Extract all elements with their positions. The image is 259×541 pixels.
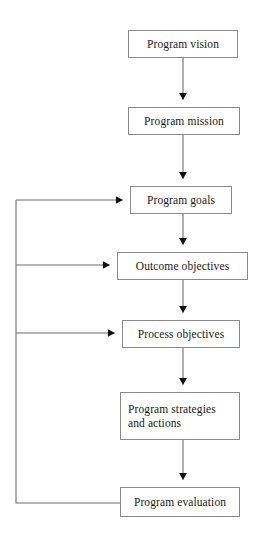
node-label: Process objectives — [138, 327, 224, 341]
node-label: Outcome objectives — [136, 259, 229, 273]
node-outcome-objectives[interactable]: Outcome objectives — [117, 252, 248, 280]
node-process-objectives[interactable]: Process objectives — [122, 320, 240, 348]
node-label-line-1: Program strategies — [128, 403, 216, 415]
node-label: Program mission — [144, 114, 224, 128]
node-program-vision[interactable]: Program vision — [128, 30, 238, 58]
flowchart-canvas: Program vision Program mission Program g… — [0, 0, 259, 541]
node-label: Program evaluation — [134, 495, 226, 509]
node-program-evaluation[interactable]: Program evaluation — [120, 487, 240, 517]
feedback-bus — [16, 200, 120, 503]
node-program-mission[interactable]: Program mission — [128, 107, 240, 135]
node-program-goals[interactable]: Program goals — [130, 186, 232, 214]
node-label: Program goals — [147, 193, 215, 207]
node-label: Program strategies and actions — [128, 402, 216, 430]
node-program-strategies[interactable]: Program strategies and actions — [120, 392, 240, 440]
node-label: Program vision — [147, 37, 219, 51]
node-label-line-2: and actions — [128, 417, 181, 429]
